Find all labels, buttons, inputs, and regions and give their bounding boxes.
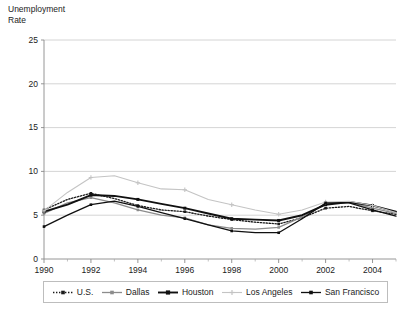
legend-swatch-u-s--icon xyxy=(52,288,74,297)
legend-label: Dallas xyxy=(126,287,150,297)
legend-item-los-angeles[interactable]: Los Angeles xyxy=(221,287,292,297)
legend-swatch-dallas-icon xyxy=(101,288,123,297)
legend-item-u-s-[interactable]: U.S. xyxy=(52,287,94,297)
legend-swatch-houston-icon xyxy=(157,288,179,297)
svg-text:1992: 1992 xyxy=(81,265,100,275)
legend-label: U.S. xyxy=(77,287,94,297)
unemployment-rate-chart: Unemployment Rate 0510152025 19901992199… xyxy=(0,0,416,316)
legend: U.S.DallasHoustonLos AngelesSan Francisc… xyxy=(43,281,388,303)
legend-label: Houston xyxy=(182,287,214,297)
svg-text:20: 20 xyxy=(29,79,39,89)
legend-item-dallas[interactable]: Dallas xyxy=(101,287,150,297)
svg-text:1998: 1998 xyxy=(222,265,241,275)
legend-item-houston[interactable]: Houston xyxy=(157,287,214,297)
svg-text:2002: 2002 xyxy=(316,265,335,275)
legend-item-san-francisco[interactable]: San Francisco xyxy=(300,287,379,297)
svg-text:2000: 2000 xyxy=(269,265,288,275)
series-layer xyxy=(42,175,396,234)
gridlines xyxy=(44,40,396,215)
legend-label: San Francisco xyxy=(325,287,379,297)
series-u-s- xyxy=(43,192,396,225)
svg-text:10: 10 xyxy=(29,166,39,176)
svg-text:25: 25 xyxy=(29,35,39,45)
x-axis: 19901992199419961998200020022004 xyxy=(35,259,396,275)
svg-text:1994: 1994 xyxy=(128,265,147,275)
svg-text:2004: 2004 xyxy=(363,265,382,275)
svg-text:15: 15 xyxy=(29,122,39,132)
svg-text:5: 5 xyxy=(33,210,38,220)
legend-label: Los Angeles xyxy=(246,287,292,297)
svg-text:1990: 1990 xyxy=(35,265,54,275)
plot-area: 0510152025 19901992199419961998200020022… xyxy=(0,0,416,280)
y-axis-ticks: 0510152025 xyxy=(29,35,44,264)
legend-swatch-san-francisco-icon xyxy=(300,288,322,297)
svg-text:1996: 1996 xyxy=(175,265,194,275)
svg-text:0: 0 xyxy=(33,254,38,264)
legend-swatch-los-angeles-icon xyxy=(221,288,243,297)
